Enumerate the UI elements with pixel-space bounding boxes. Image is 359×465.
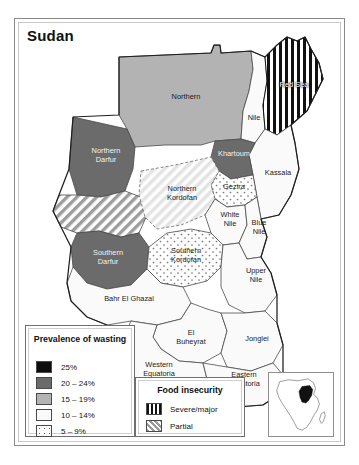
region-northern-darfur xyxy=(69,117,135,197)
swatch-severe-major xyxy=(146,403,162,415)
legend-food-insecurity: Food insecurity Severe/major Partial xyxy=(135,377,245,437)
legend-item-partial: Partial xyxy=(146,419,193,433)
region-northern xyxy=(119,45,253,147)
swatch-20-24 xyxy=(36,377,52,389)
legend-item-25: 25% xyxy=(36,360,77,374)
swatch-25 xyxy=(36,361,52,373)
region-southern-kordofan xyxy=(147,229,223,287)
legend-label-15-19: 15 – 19% xyxy=(61,395,95,404)
legend-item-severe-major: Severe/major xyxy=(146,402,218,416)
legend-label-partial: Partial xyxy=(170,422,193,431)
legend-label-20-24: 20 – 24% xyxy=(61,379,95,388)
legend-label-severe-major: Severe/major xyxy=(170,405,218,414)
africa-map-icon xyxy=(269,373,333,436)
region-red-sea xyxy=(263,37,323,135)
region-western-darfur xyxy=(53,191,147,237)
swatch-5-9 xyxy=(36,425,52,437)
figure-page: Sudan xyxy=(0,0,359,465)
region-jonglei xyxy=(221,311,283,371)
legend-food-title: Food insecurity xyxy=(136,385,244,396)
swatch-15-19 xyxy=(36,393,52,405)
madagascar-outline xyxy=(319,412,325,424)
legend-prevalence-of-wasting: Prevalence of wasting 25% 20 – 24% 15 – … xyxy=(25,325,135,437)
legend-item-15-19: 15 – 19% xyxy=(36,392,95,406)
legend-label-25: 25% xyxy=(61,363,77,372)
legend-label-10-14: 10 – 14% xyxy=(61,411,95,420)
figure-frame: Sudan xyxy=(14,18,345,446)
legend-wasting-title: Prevalence of wasting xyxy=(26,334,134,345)
swatch-partial xyxy=(146,420,162,432)
legend-label-5-9: 5 – 9% xyxy=(61,427,86,436)
legend-item-20-24: 20 – 24% xyxy=(36,376,95,390)
africa-locator-inset xyxy=(268,372,334,437)
africa-outline xyxy=(277,379,320,430)
swatch-10-14 xyxy=(36,409,52,421)
legend-item-10-14: 10 – 14% xyxy=(36,408,95,422)
legend-item-5-9: 5 – 9% xyxy=(36,424,86,438)
